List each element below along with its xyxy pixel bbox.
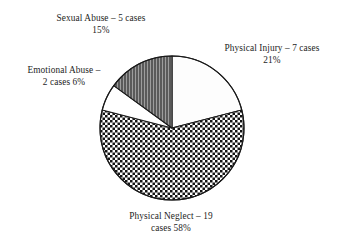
pie-label-sexual-abuse: Sexual Abuse – 5 cases 15%: [26, 12, 176, 36]
pie-chart-figure: Sexual Abuse – 5 cases 15% Physical Inju…: [0, 0, 341, 248]
pie-label-physical-injury-line1: Physical Injury – 7 cases: [206, 42, 338, 54]
pie-label-physical-neglect: Physical Neglect – 19 cases 58%: [96, 210, 246, 234]
pie-label-physical-neglect-line2: cases 58%: [96, 222, 246, 234]
pie-label-emotional-abuse-line2: 2 cases 6%: [6, 76, 122, 88]
pie-label-physical-injury: Physical Injury – 7 cases 21%: [206, 42, 338, 66]
pie-label-sexual-abuse-line2: 15%: [26, 24, 176, 36]
pie-label-physical-injury-line2: 21%: [206, 54, 338, 66]
pie-label-sexual-abuse-line1: Sexual Abuse – 5 cases: [26, 12, 176, 24]
pie-label-emotional-abuse-line1: Emotional Abuse –: [6, 64, 122, 76]
pie-label-physical-neglect-line1: Physical Neglect – 19: [96, 210, 246, 222]
pie-label-emotional-abuse: Emotional Abuse – 2 cases 6%: [6, 64, 122, 88]
